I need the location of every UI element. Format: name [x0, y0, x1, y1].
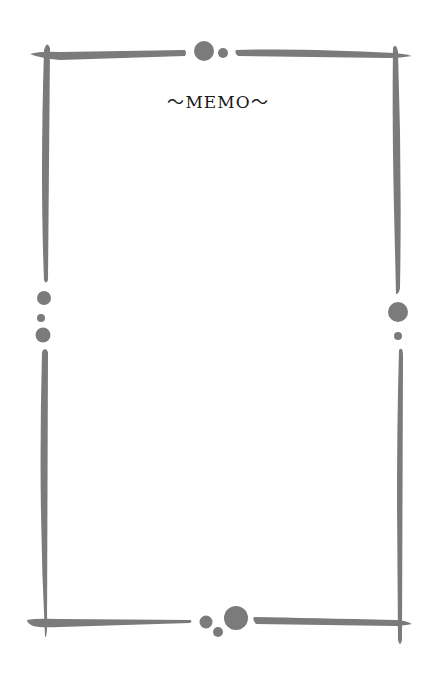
bottom-dot-small-left [200, 616, 213, 629]
top-left-stroke [30, 50, 186, 60]
right-dot-small [394, 332, 402, 340]
left-dot-bottom [36, 328, 51, 343]
left-dot-middle [37, 314, 45, 322]
top-dot-small [218, 48, 228, 58]
bottom-dot-large [224, 606, 248, 630]
top-right-stroke [235, 49, 412, 58]
left-upper-stroke [42, 44, 50, 282]
bottom-left-stroke [27, 619, 192, 628]
right-dot-large [388, 302, 408, 322]
left-lower-stroke [41, 349, 48, 637]
memo-writing-area [50, 120, 386, 590]
left-dot-top [37, 291, 51, 305]
bottom-right-stroke [253, 617, 412, 626]
memo-title: 〜MEMO〜 [0, 88, 436, 113]
bottom-dot-small-bottom [213, 627, 223, 637]
right-upper-stroke [393, 46, 401, 294]
right-lower-stroke [397, 349, 403, 644]
top-dot-large [194, 41, 214, 61]
